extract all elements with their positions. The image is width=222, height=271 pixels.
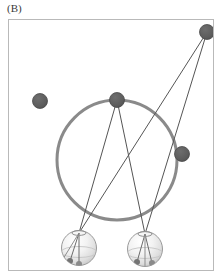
connection-line-ringtop-to-left-sphere — [79, 100, 117, 233]
isolated-dark-node-icon — [33, 94, 48, 109]
right-sphere-marker-a — [134, 259, 140, 265]
gray-ring — [57, 100, 177, 220]
left-shaded-sphere — [61, 231, 97, 268]
right-shaded-sphere — [127, 232, 163, 267]
left-sphere-marker-b — [76, 261, 82, 267]
upper-right-node-icon — [200, 25, 215, 40]
ring-right-node-icon — [175, 147, 190, 162]
ring-top-node-icon — [110, 93, 125, 108]
connection-line-topright-to-left-sphere — [79, 32, 207, 233]
connection-line-topright-to-right-sphere — [145, 32, 207, 234]
